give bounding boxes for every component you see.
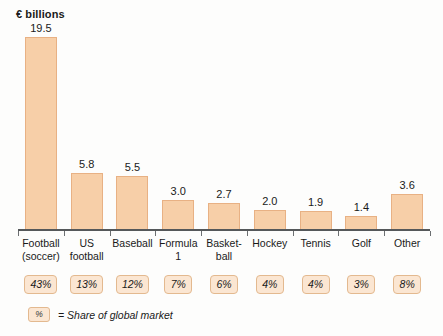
category-label-line: (soccer) (18, 250, 64, 263)
category-label: Hockey (247, 237, 293, 262)
bar (254, 210, 286, 230)
category-label-line: Golf (338, 237, 384, 250)
market-share-slot: 43% (18, 275, 64, 294)
x-axis-tick (64, 231, 65, 236)
x-axis-tick (430, 231, 431, 236)
category-label: USfootball (64, 237, 110, 262)
bar-group: 5.8 (64, 22, 110, 230)
x-axis-tick (18, 231, 19, 236)
x-axis-tick (338, 231, 339, 236)
bar (116, 176, 148, 230)
market-share-slot: 8% (384, 275, 430, 294)
bar-value-label: 2.7 (216, 188, 231, 201)
market-share-badge: 4% (302, 275, 330, 294)
category-label-line: ball (201, 250, 247, 263)
category-label-line: Tennis (293, 237, 339, 250)
market-share-badge: 12% (116, 275, 149, 294)
category-label-line: 1 (155, 250, 201, 263)
bar-group: 5.5 (110, 22, 156, 230)
market-share-slot: 7% (155, 275, 201, 294)
bar-value-label: 2.0 (262, 195, 277, 208)
market-share-slot: 12% (110, 275, 156, 294)
category-label-line: Hockey (247, 237, 293, 250)
category-label-line: Baseball (110, 237, 156, 250)
bar-value-label: 5.5 (125, 161, 140, 174)
market-share-slot: 6% (201, 275, 247, 294)
bar-chart: € billions 19.55.85.53.02.72.01.91.43.6 … (0, 0, 443, 336)
market-share-badges: 43%13%12%7%6%4%4%3%8% (18, 275, 430, 294)
market-share-badge: 13% (70, 275, 103, 294)
category-label: Other (384, 237, 430, 262)
category-label: Formula1 (155, 237, 201, 262)
market-share-badge: 7% (164, 275, 192, 294)
legend: % = Share of global market (28, 307, 173, 322)
legend-percent-swatch: % (28, 307, 50, 322)
bar-value-label: 5.8 (79, 158, 94, 171)
bar-group: 2.0 (247, 22, 293, 230)
plot-area: 19.55.85.53.02.72.01.91.43.6 (18, 22, 430, 230)
bar-group: 1.9 (293, 22, 339, 230)
bar-value-label: 3.6 (399, 179, 414, 192)
bar (345, 216, 377, 230)
market-share-badge: 3% (347, 275, 375, 294)
bar-group: 19.5 (18, 22, 64, 230)
bar-value-label: 19.5 (30, 22, 51, 35)
bar-value-label: 1.4 (354, 201, 369, 214)
market-share-slot: 4% (247, 275, 293, 294)
x-axis-tick (247, 231, 248, 236)
bar (208, 203, 240, 230)
bar-group: 1.4 (338, 22, 384, 230)
bar-group: 2.7 (201, 22, 247, 230)
x-axis-tick (110, 231, 111, 236)
category-label-line: Other (384, 237, 430, 250)
category-label-line: Football (18, 237, 64, 250)
market-share-slot: 4% (293, 275, 339, 294)
bar-value-label: 3.0 (171, 185, 186, 198)
market-share-badge: 6% (210, 275, 238, 294)
category-label: Basket-ball (201, 237, 247, 262)
category-label: Baseball (110, 237, 156, 262)
category-label-line: US (64, 237, 110, 250)
bar-group: 3.6 (384, 22, 430, 230)
bar (391, 194, 423, 230)
bar-value-label: 1.9 (308, 196, 323, 209)
x-axis-ticks (18, 231, 430, 236)
bar (71, 173, 103, 230)
market-share-slot: 3% (338, 275, 384, 294)
bar-series: 19.55.85.53.02.72.01.91.43.6 (18, 22, 430, 230)
market-share-badge: 8% (393, 275, 421, 294)
legend-label: = Share of global market (58, 309, 173, 321)
category-label-line: Basket- (201, 237, 247, 250)
market-share-badge: 4% (256, 275, 284, 294)
category-label-line: football (64, 250, 110, 263)
x-axis-tick (293, 231, 294, 236)
x-axis-tick (155, 231, 156, 236)
bar-group: 3.0 (155, 22, 201, 230)
category-label: Football(soccer) (18, 237, 64, 262)
x-axis-tick (384, 231, 385, 236)
bar (300, 211, 332, 230)
x-axis-tick (201, 231, 202, 236)
category-label: Tennis (293, 237, 339, 262)
bar (25, 37, 57, 230)
market-share-badge: 43% (24, 275, 57, 294)
category-label: Golf (338, 237, 384, 262)
bar (162, 200, 194, 230)
chart-title: € billions (16, 8, 65, 20)
category-label-line: Formula (155, 237, 201, 250)
market-share-slot: 13% (64, 275, 110, 294)
x-axis-category-labels: Football(soccer)USfootballBaseballFormul… (18, 237, 430, 262)
